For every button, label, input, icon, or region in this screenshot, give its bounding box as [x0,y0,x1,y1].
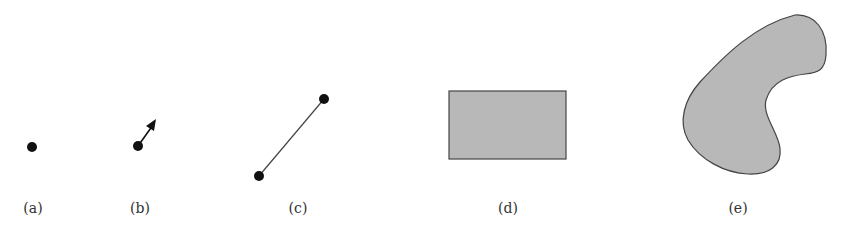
label-e: (e) [728,200,747,216]
diagram-canvas [0,0,851,229]
point-icon [27,142,37,152]
figure-e-region [683,15,826,174]
endpoint-icon [254,171,264,181]
label-c: (c) [289,200,308,216]
label-b: (b) [130,200,150,216]
rectangle-shape [449,91,566,159]
figure-a-point [27,142,37,152]
figure-d-rectangle [449,91,566,159]
figure-b-vector [133,119,156,151]
figure-c-line-segment [254,94,329,181]
segment-line [259,99,324,176]
region-shape [683,15,826,174]
label-a: (a) [23,200,42,216]
label-d: (d) [498,200,518,216]
arrow-head-icon [146,119,156,131]
endpoint-icon [319,94,329,104]
